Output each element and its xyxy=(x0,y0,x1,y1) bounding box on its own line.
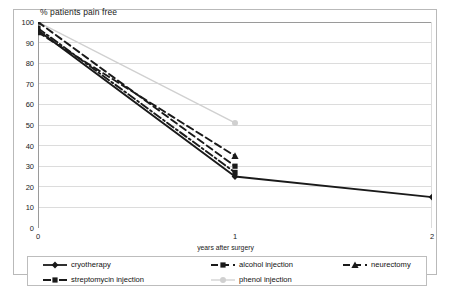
y-tick-70: 70 xyxy=(10,79,34,88)
chart-figure: % patients pain free 0102030405060708090… xyxy=(0,0,451,290)
legend-label: neurectomy xyxy=(371,261,411,269)
legend-swatch-square-icon xyxy=(210,260,236,270)
legend-swatch-square-icon xyxy=(42,275,68,285)
plot-area xyxy=(38,22,432,228)
legend-item-cryotherapy[interactable]: cryotherapy xyxy=(42,260,210,270)
y-axis-tick-labels: 0102030405060708090100 xyxy=(8,22,34,228)
legend-label: phenol injection xyxy=(239,276,292,284)
legend-item-alcohol-injection[interactable]: alcohol injection xyxy=(210,260,342,270)
chart-title: % patients pain free xyxy=(40,7,117,17)
y-tick-80: 80 xyxy=(10,59,34,68)
y-tick-100: 100 xyxy=(10,18,34,27)
plot-svg xyxy=(38,22,432,228)
y-tick-40: 40 xyxy=(10,141,34,150)
x-axis-tick-labels: 012 xyxy=(0,232,451,244)
legend-label: cryotherapy xyxy=(71,261,111,269)
legend-item-neurectomy[interactable]: neurectomy xyxy=(342,260,442,270)
x-tick-2: 2 xyxy=(430,232,434,241)
legend-label: alcohol injection xyxy=(239,261,293,269)
y-tick-30: 30 xyxy=(10,162,34,171)
legend-item-streptomycin-injection[interactable]: streptomycin injection xyxy=(42,275,210,285)
y-tick-20: 20 xyxy=(10,182,34,191)
y-tick-90: 90 xyxy=(10,38,34,47)
x-tick-1: 1 xyxy=(233,232,237,241)
x-tick-0: 0 xyxy=(36,232,40,241)
legend-label: streptomycin injection xyxy=(71,276,144,284)
y-tick-60: 60 xyxy=(10,100,34,109)
legend-swatch-triangle-icon xyxy=(342,260,368,270)
legend-swatch-circle-icon xyxy=(210,275,236,285)
y-tick-50: 50 xyxy=(10,121,34,130)
y-tick-10: 10 xyxy=(10,203,34,212)
chart-legend: cryotherapyalcohol injectionneurectomyst… xyxy=(27,256,427,286)
x-axis-label: years after surgery xyxy=(0,244,451,251)
legend-swatch-diamond-icon xyxy=(42,260,68,270)
legend-item-phenol-injection[interactable]: phenol injection xyxy=(210,275,342,285)
